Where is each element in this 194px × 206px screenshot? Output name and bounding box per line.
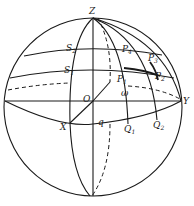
sphere-diagram: Z Y X O S2 S1 P4 P3 P1 P2 Q1 Q2 ω q [0, 0, 194, 206]
parallel-dashed [8, 83, 70, 90]
x-axis [70, 101, 93, 123]
label-q2: Q2 [153, 120, 164, 131]
meridian-dashed-lower [92, 124, 110, 196]
label-o: O [83, 94, 91, 104]
label-q1: Q1 [124, 124, 135, 135]
parallel-s1 [10, 70, 174, 78]
label-y: Y [183, 96, 190, 106]
label-z: Z [88, 6, 96, 16]
label-x: X [59, 122, 67, 132]
label-p1: P1 [116, 74, 127, 85]
label-omega: ω [121, 88, 129, 98]
label-s2: S2 [66, 43, 76, 54]
meridian-s [70, 18, 93, 196]
projection-o-p [93, 82, 110, 101]
label-p2: P2 [154, 71, 165, 82]
label-q: q [98, 117, 104, 127]
label-p4: P4 [121, 44, 132, 55]
